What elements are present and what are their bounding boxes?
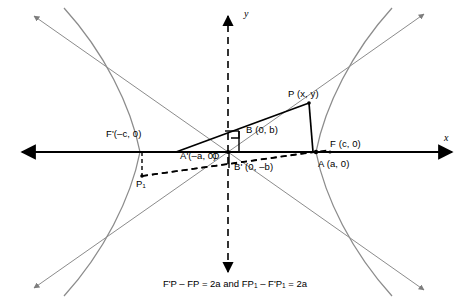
asymptote-lower-right <box>228 152 424 290</box>
label-left-focus: F'(–c, 0) <box>106 128 141 139</box>
dot-origin <box>226 150 230 154</box>
caption-part-two: FP1 – F'P1 = 2a <box>242 278 307 289</box>
dot-F <box>328 150 331 153</box>
caption-fp-mid: – F'P <box>258 278 283 289</box>
dot-A <box>314 150 318 154</box>
label-conjugate-upper: B (0, b) <box>246 124 278 135</box>
y-axis-label: y <box>244 8 248 19</box>
focal-radii-P <box>176 103 313 152</box>
label-right-vertex: A (a, 0) <box>318 158 349 169</box>
label-point-P1: P₁ <box>136 178 146 189</box>
caption-fp-suffix: = 2a <box>286 278 307 289</box>
hyperbola-diagram <box>0 0 470 307</box>
segment-Fprime-P <box>176 103 309 152</box>
caption-fp-prefix: FP <box>242 278 254 289</box>
label-point-P: P (x, y) <box>288 88 319 99</box>
dot-P <box>307 101 311 105</box>
caption-conjunction: and <box>223 278 239 289</box>
caption-part-one: F'P – FP = 2a <box>163 278 221 289</box>
asymptote-lower-left <box>34 152 228 288</box>
label-conjugate-lower: B' (0, –b) <box>234 161 273 172</box>
figure-caption: F'P – FP = 2a and FP1 – F'P1 = 2a <box>0 278 470 289</box>
segment-P-F <box>309 103 313 152</box>
label-origin: O <box>212 150 220 161</box>
label-right-focus: F (c, 0) <box>330 138 361 149</box>
hyperbola-figure-panel: y x F'(–c, 0) A'(–a, 0) O A (a, 0) F (c,… <box>0 0 470 307</box>
x-axis-label: x <box>444 132 448 143</box>
